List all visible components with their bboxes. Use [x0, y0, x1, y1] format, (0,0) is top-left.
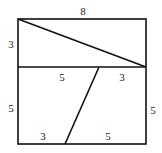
label-bottom-right-height: 5 — [150, 105, 156, 116]
bottom-slant-line — [65, 67, 99, 144]
label-top-left-height: 3 — [8, 39, 14, 50]
label-mid-left-segment: 5 — [59, 72, 65, 83]
label-mid-right-segment: 3 — [119, 72, 125, 83]
outer-rectangle — [18, 19, 146, 144]
label-bottom-right-segment: 5 — [105, 131, 111, 142]
label-bottom-left-height: 5 — [8, 103, 14, 114]
top-diagonal-line — [18, 19, 146, 67]
label-bottom-left-segment: 3 — [40, 131, 46, 142]
label-top-width: 8 — [80, 6, 86, 17]
diagram-canvas — [0, 0, 162, 153]
